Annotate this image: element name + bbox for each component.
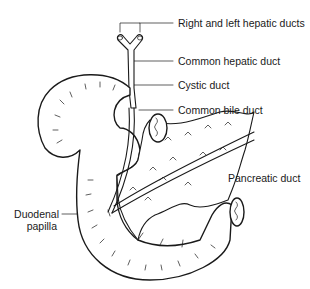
label-pancreatic-duct: Pancreatic duct xyxy=(228,172,300,184)
duodenum-cut-upper xyxy=(149,114,167,142)
label-duodenal-papilla-line2: papilla xyxy=(14,220,57,232)
label-duodenal-papilla-line1: Duodenal xyxy=(14,208,59,220)
label-common-hepatic-duct: Common hepatic duct xyxy=(178,55,280,67)
label-right-left-hepatic-ducts: Right and left hepatic ducts xyxy=(178,17,305,29)
label-common-bile-duct: Common bile duct xyxy=(178,104,263,116)
anatomy-diagram: Right and left hepatic ducts Common hepa… xyxy=(0,0,310,289)
anatomy-illustration xyxy=(0,0,310,289)
duodenum-cut-lower xyxy=(230,198,244,226)
label-cystic-duct: Cystic duct xyxy=(178,79,229,91)
